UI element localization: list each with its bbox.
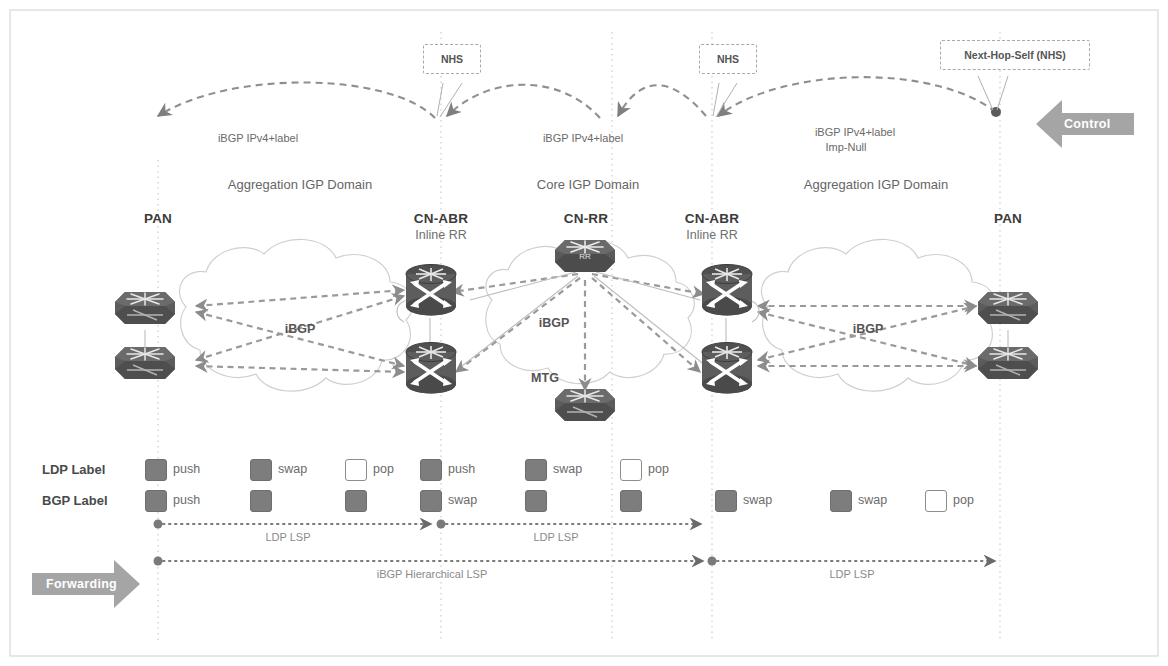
diagram-graphics: RR xyxy=(0,0,1168,666)
control-banner: Control xyxy=(1036,112,1136,136)
diagram-canvas: RR NHS NHS Next-Hop-Self (NHS) xyxy=(0,0,1168,666)
router-pan-right-bottom xyxy=(978,347,1038,379)
ldp-op-2: pop xyxy=(373,462,394,476)
bgp-chip-7 xyxy=(830,490,852,512)
bgp-chip-1 xyxy=(250,490,272,512)
bgp-chip-6 xyxy=(715,490,737,512)
node-title-cn-abr-left: CN-ABR xyxy=(414,211,468,227)
node-title-pan-left: PAN xyxy=(144,211,172,227)
rr-node-caption: RR xyxy=(579,252,591,261)
session-label-right: iBGP IPv4+label xyxy=(815,126,895,139)
node-subtitle-cn-abr-right: Inline RR xyxy=(686,228,737,242)
bgp-chip-5 xyxy=(620,490,642,512)
session-label-left: iBGP IPv4+label xyxy=(218,132,298,145)
callout-nhs-right: Next-Hop-Self (NHS) xyxy=(940,40,1090,70)
bgp-op-6: swap xyxy=(743,493,772,507)
router-pan-right-top xyxy=(978,292,1038,324)
domain-label-core: Core IGP Domain xyxy=(537,178,639,193)
ldp-chip-4 xyxy=(525,459,547,481)
ldp-op-1: swap xyxy=(278,462,307,476)
control-banner-label: Control xyxy=(1064,117,1111,131)
link-label-ibgp-agg-right: iBGP xyxy=(853,322,884,336)
bgp-chip-8 xyxy=(925,490,947,512)
ldp-chip-5 xyxy=(620,459,642,481)
lsp-row-top-graphics xyxy=(154,520,701,529)
router-pan-left-top xyxy=(115,292,175,324)
lsp-label-ibgp-hier: iBGP Hierarchical LSP xyxy=(377,568,487,581)
callout-leaders xyxy=(437,76,1008,117)
bgp-op-8: pop xyxy=(953,493,974,507)
link-label-mtg-core: MTG xyxy=(531,371,559,385)
forwarding-banner-label: Forwarding xyxy=(46,577,117,591)
label-row-title-bgp: BGP Label xyxy=(42,494,108,509)
bgp-op-0: push xyxy=(173,493,200,507)
ldp-chip-2 xyxy=(345,459,367,481)
router-mtg xyxy=(555,389,615,421)
forwarding-banner: Forwarding xyxy=(32,572,142,596)
router-cn-abr-left-bottom xyxy=(406,343,456,394)
node-title-cn-abr-right: CN-ABR xyxy=(685,211,739,227)
router-node-group xyxy=(115,240,1038,421)
ldp-op-3: push xyxy=(448,462,475,476)
domain-label-agg-right: Aggregation IGP Domain xyxy=(804,178,948,193)
lsp-label-ldp-3: LDP LSP xyxy=(829,568,874,581)
router-cn-abr-left-top xyxy=(406,265,456,316)
callout-nhs-left-label: NHS xyxy=(441,53,463,65)
ldp-op-4: swap xyxy=(553,462,582,476)
callout-nhs-mid: NHS xyxy=(699,44,757,74)
bgp-op-7: swap xyxy=(858,493,887,507)
bgp-chip-2 xyxy=(345,490,367,512)
router-pan-left-bottom xyxy=(115,347,175,379)
node-subtitle-cn-abr-left: Inline RR xyxy=(415,228,466,242)
router-cn-abr-right-bottom xyxy=(702,343,752,394)
router-cn-abr-right-top xyxy=(702,265,752,316)
node-title-pan-right: PAN xyxy=(994,211,1022,227)
ldp-op-5: pop xyxy=(648,462,669,476)
domain-label-agg-left: Aggregation IGP Domain xyxy=(228,178,372,193)
callout-nhs-left: NHS xyxy=(423,44,481,74)
session-label-mid: iBGP IPv4+label xyxy=(543,132,623,145)
lsp-label-ldp-2: LDP LSP xyxy=(533,531,578,544)
ldp-chip-1 xyxy=(250,459,272,481)
session-sublabel-right: Imp-Null xyxy=(826,141,867,154)
node-title-cn-rr: CN-RR xyxy=(564,211,609,227)
ldp-chip-0 xyxy=(145,459,167,481)
label-row-title-ldp: LDP Label xyxy=(42,463,105,478)
ldp-op-0: push xyxy=(173,462,200,476)
link-label-ibgp-agg-left: iBGP xyxy=(285,322,316,336)
bgp-chip-4 xyxy=(525,490,547,512)
lsp-label-ldp-1: LDP LSP xyxy=(265,531,310,544)
callout-nhs-right-label: Next-Hop-Self (NHS) xyxy=(964,49,1066,61)
link-label-ibgp-core: iBGP xyxy=(539,316,570,330)
callout-nhs-mid-label: NHS xyxy=(717,53,739,65)
control-plane-arcs xyxy=(158,77,996,118)
bgp-chip-3 xyxy=(420,490,442,512)
bgp-op-3: swap xyxy=(448,493,477,507)
bgp-chip-0 xyxy=(145,490,167,512)
lsp-row-bottom-graphics xyxy=(154,557,995,566)
core-igp-links xyxy=(462,272,706,366)
ldp-chip-3 xyxy=(420,459,442,481)
